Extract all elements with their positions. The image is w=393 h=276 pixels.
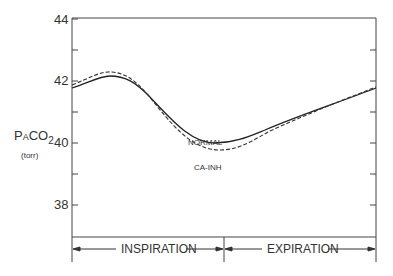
ytick-42: 42 <box>54 73 68 88</box>
normal-label: NORMAL <box>188 138 222 147</box>
ytick-44: 44 <box>54 12 68 27</box>
ytick-38: 38 <box>54 197 68 212</box>
ytick-40: 40 <box>54 135 68 150</box>
inspiration-label: INSPIRATION <box>121 242 197 256</box>
ca-inh-series-line <box>72 72 376 150</box>
y-axis-unit: (torr) <box>21 151 38 160</box>
y-axis-label: PACO2 <box>14 128 54 146</box>
expiration-label: EXPIRATION <box>267 242 339 256</box>
normal-series-line <box>72 76 376 143</box>
ca-inh-label: CA-INH <box>194 163 222 172</box>
